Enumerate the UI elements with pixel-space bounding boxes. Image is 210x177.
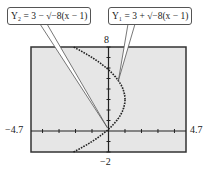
callout-y1: Y₁ = 3 + √−8(x − 1)	[108, 7, 192, 25]
y-min-label: −2	[100, 157, 111, 167]
callout-y2: Y₂ = 3 − √−8(x − 1)	[7, 7, 91, 25]
y-max-label: 8	[104, 35, 109, 45]
x-max-label: 4.7	[190, 125, 203, 135]
graph-canvas	[0, 0, 210, 177]
x-min-label: −4.7	[5, 125, 23, 135]
